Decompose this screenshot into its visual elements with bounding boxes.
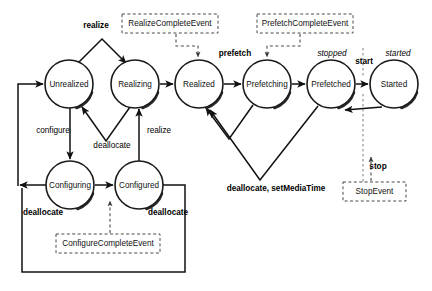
label-prefetch-top: prefetch xyxy=(219,49,251,58)
state-diagram: Unrealized Realizing Realized Prefetchin… xyxy=(0,0,432,291)
label-start: start xyxy=(355,57,373,66)
event-box-label: PrefetchCompleteEvent xyxy=(262,19,349,28)
state-started-label: Started xyxy=(381,80,408,89)
label-stopped: stopped xyxy=(317,49,347,58)
event-box-label: StopEvent xyxy=(356,187,395,196)
state-prefetching[interactable]: Prefetching xyxy=(243,60,291,108)
state-configured[interactable]: Configured xyxy=(115,161,163,209)
label-configure: configure xyxy=(36,126,70,135)
state-realizing-label: Realizing xyxy=(118,80,152,89)
event-box-configure-complete[interactable]: ConfigureCompleteEvent xyxy=(56,234,160,253)
state-unrealized-label: Unrealized xyxy=(49,80,89,89)
state-prefetched[interactable]: Prefetched xyxy=(307,60,355,108)
label-deallocate-mid: deallocate xyxy=(93,141,131,150)
state-started[interactable]: Started xyxy=(370,60,418,108)
state-realized-label: Realized xyxy=(183,80,215,89)
edge-realize-unrealized-to-realizing xyxy=(78,39,126,63)
event-box-stop-event[interactable]: StopEvent xyxy=(343,182,406,201)
label-realize-top: realize xyxy=(83,21,109,30)
state-configured-label: Configured xyxy=(119,181,160,190)
label-deallocate-setmediatime: deallocate, setMediaTime xyxy=(227,184,326,193)
connector-prefetch-complete-event xyxy=(267,34,300,57)
event-box-realize-complete[interactable]: RealizeCompleteEvent xyxy=(122,14,218,33)
edge-deallocate-prefetched-to-realized xyxy=(210,106,318,180)
state-configuring-label: Configuring xyxy=(49,181,91,190)
state-realizing[interactable]: Realizing xyxy=(111,60,159,108)
event-box-prefetch-complete[interactable]: PrefetchCompleteEvent xyxy=(257,14,353,33)
label-started-italic: started xyxy=(385,49,410,58)
label-deallocate-right: deallocate xyxy=(148,208,188,217)
connector-realize-complete-event xyxy=(176,34,198,57)
event-box-label: RealizeCompleteEvent xyxy=(128,19,212,28)
state-configuring[interactable]: Configuring xyxy=(46,161,94,209)
state-unrealized[interactable]: Unrealized xyxy=(45,60,93,108)
state-prefetching-label: Prefetching xyxy=(246,80,288,89)
state-prefetched-label: Prefetched xyxy=(311,80,351,89)
edge-deallocate-realizing-to-unrealized xyxy=(82,107,130,141)
state-realized[interactable]: Realized xyxy=(175,60,223,108)
label-realize-mid: realize xyxy=(147,126,172,135)
diagram-canvas: Unrealized Realizing Realized Prefetchin… xyxy=(0,0,432,291)
label-deallocate-left: deallocate xyxy=(23,208,63,217)
edge-deallocate-prefetching-to-realized xyxy=(206,105,253,139)
label-stop: stop xyxy=(369,162,386,171)
event-box-label: ConfigureCompleteEvent xyxy=(62,239,154,248)
